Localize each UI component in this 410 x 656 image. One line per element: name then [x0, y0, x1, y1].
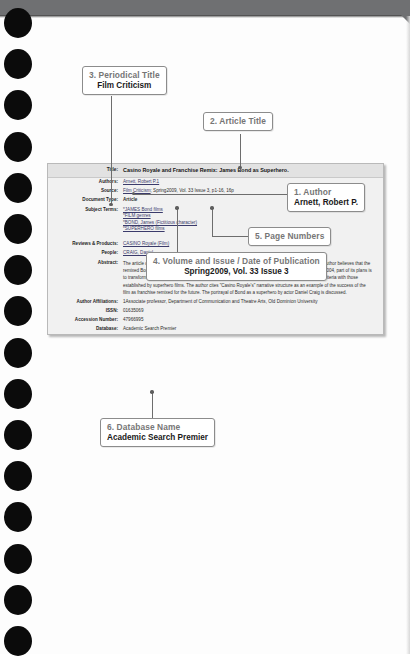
subject-term-link[interactable]: *FILM genres [123, 213, 375, 220]
binding-hole [4, 338, 32, 368]
record-value-issn: 01635069 [123, 308, 383, 315]
binding-hole [4, 502, 32, 532]
callout-article-number: 2. Article Title [210, 116, 266, 126]
record-label-issn: ISSN: [48, 308, 123, 315]
binding-hole [4, 379, 32, 409]
reviews-link[interactable]: CASINO Royale (Film) [123, 241, 169, 246]
binding-hole [4, 214, 32, 244]
record-label-people: People: [48, 250, 123, 257]
binding-hole [4, 49, 32, 79]
record-label-database: Database: [48, 326, 123, 333]
record-value-author-affiliations: 1Associate professor, Department of Comm… [123, 299, 383, 306]
callout-periodical-value: Film Criticism [89, 81, 160, 90]
page-right-shadow [406, 16, 410, 654]
connector-periodical-vertical [111, 96, 112, 204]
record-value-title: Casino Royale and Franchise Remix: James… [123, 167, 383, 175]
record-row-reviews-products: Reviews & Products: CASINO Royale (Film) [48, 240, 383, 249]
connector-dot-author [132, 192, 135, 195]
binding-hole [4, 255, 32, 285]
binding-hole [4, 420, 32, 450]
connector-dot-article [238, 166, 241, 169]
callout-volume-number: 4. Volume and Issue / Date of Publicatio… [153, 256, 320, 266]
connector-pages-horizontal [212, 236, 249, 237]
binding-hole [4, 461, 32, 491]
record-label-reviews-products: Reviews & Products: [48, 241, 123, 248]
callout-volume-value: Spring2009, Vol. 33 Issue 3 [153, 267, 320, 276]
connector-author-horizontal [133, 194, 288, 195]
binding-hole [4, 173, 32, 203]
callout-article-title: 2. Article Title [203, 112, 273, 131]
connector-dot-pages [210, 206, 213, 209]
binding-hole [4, 544, 32, 574]
binding-hole [4, 8, 32, 38]
callout-database-number: 6. Database Name [107, 422, 208, 432]
callout-author: 1. Author Arnett, Robert P. [287, 183, 365, 212]
binding-hole [4, 90, 32, 120]
spiral-binding [0, 0, 42, 654]
record-value-database: Academic Search Premier [123, 326, 383, 333]
binding-hole [4, 626, 32, 656]
record-value-accession-number: 47966995 [123, 317, 383, 324]
connector-dot-periodical [109, 203, 112, 206]
record-row-issn: ISSN: 01635069 [48, 307, 383, 316]
page-top-edge [0, 15, 410, 18]
top-gray-band [0, 0, 410, 16]
record-row-title: Title: Casino Royale and Franchise Remix… [48, 164, 383, 178]
binding-hole [4, 132, 32, 162]
callout-page-numbers: 5. Page Numbers [248, 227, 331, 246]
record-row-author-affiliations: Author Affiliations: 1Associate professo… [48, 298, 383, 307]
record-label-author-affiliations: Author Affiliations: [48, 299, 123, 306]
record-label-accession-number: Accession Number: [48, 317, 123, 324]
callout-periodical-title: 3. Periodical Title Film Criticism [82, 66, 167, 95]
record-label-abstract: Abstract: [48, 260, 123, 267]
callout-database-value: Academic Search Premier [107, 433, 208, 442]
connector-dot-database [150, 390, 153, 393]
callout-database-name: 6. Database Name Academic Search Premier [100, 418, 215, 447]
callout-pages-number: 5. Page Numbers [255, 231, 324, 241]
connector-article-vertical [240, 134, 241, 167]
connector-volume-vertical [177, 208, 178, 256]
author-link[interactable]: Arnett, Robert P.1 [123, 179, 159, 184]
binding-hole [4, 296, 32, 326]
connector-database-vertical [152, 392, 153, 420]
subject-term-link[interactable]: *BOND, James (Fictitious character) [123, 220, 375, 227]
record-label-subject-terms: Subject Terms: [48, 207, 123, 214]
connector-pages-vertical [212, 208, 213, 236]
binding-hole [4, 585, 32, 615]
callout-author-number: 1. Author [294, 187, 358, 197]
callout-volume-issue: 4. Volume and Issue / Date of Publicatio… [146, 252, 327, 281]
record-row-database: Database: Academic Search Premier [48, 325, 383, 334]
callout-author-value: Arnett, Robert P. [294, 198, 358, 207]
connector-dot-volume [175, 206, 178, 209]
callout-periodical-number: 3. Periodical Title [89, 70, 160, 80]
record-row-accession-number: Accession Number: 47966995 [48, 316, 383, 325]
